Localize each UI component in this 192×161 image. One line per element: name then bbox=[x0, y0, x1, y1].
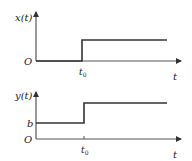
top-x-label: t bbox=[173, 71, 178, 82]
top-t0-label: t0 bbox=[79, 67, 87, 78]
top-y-label: x(t) bbox=[15, 12, 33, 23]
bottom-origin-label: O bbox=[24, 134, 32, 145]
top-plot: x(t) O t0 t bbox=[15, 12, 181, 82]
bottom-x-label: t bbox=[173, 149, 178, 160]
bottom-step-signal bbox=[36, 103, 167, 123]
bottom-plot: y(t) b O t0 t bbox=[14, 90, 181, 160]
step-response-diagram: x(t) O t0 t y(t) b O t0 t bbox=[0, 0, 192, 161]
bottom-t0-label: t0 bbox=[81, 145, 89, 156]
bottom-offset-label: b bbox=[27, 118, 33, 129]
top-origin-label: O bbox=[24, 56, 32, 67]
bottom-y-label: y(t) bbox=[14, 90, 33, 101]
top-step-signal bbox=[36, 40, 167, 61]
